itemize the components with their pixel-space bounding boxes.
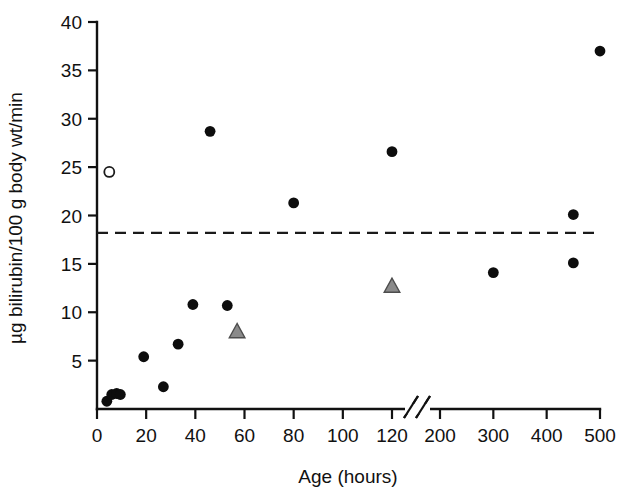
axis-break-marker: [404, 396, 430, 418]
y-axis-title: µg bilirubin/100 g body wt/min: [5, 92, 26, 344]
y-tick-label: 30: [61, 109, 82, 130]
data-point-filled-circle: [595, 46, 606, 57]
x-tick-label: 100: [327, 425, 359, 446]
data-point-filled-circle: [387, 146, 398, 157]
chart-canvas: 510152025303540 020406080100120200300400…: [0, 0, 624, 495]
x-tick-label: 20: [136, 425, 157, 446]
data-point-filled-circle: [158, 381, 169, 392]
y-tick-label: 10: [61, 302, 82, 323]
data-point-open-circle: [104, 167, 114, 177]
data-point-filled-circle: [173, 339, 184, 350]
x-tick-label: 400: [531, 425, 563, 446]
axes-group: [97, 22, 600, 409]
x-tick-label: 500: [584, 425, 616, 446]
data-point-filled-circle: [288, 198, 299, 209]
x-tick-label: 200: [424, 425, 456, 446]
y-tick-label: 15: [61, 254, 82, 275]
data-point-filled-circle: [187, 299, 198, 310]
data-point-filled-circle: [568, 209, 579, 220]
y-tick-labels: 510152025303540: [61, 12, 82, 372]
data-points-group: [101, 46, 605, 407]
y-tick-label: 25: [61, 157, 82, 178]
data-point-filled-circle: [138, 351, 149, 362]
data-point-filled-circle: [115, 389, 126, 400]
x-tick-label: 0: [92, 425, 103, 446]
x-tick-labels: 020406080100120200300400500: [92, 425, 616, 446]
x-tick-marks: [97, 409, 600, 419]
data-point-filled-circle: [568, 258, 579, 269]
x-tick-label: 80: [283, 425, 304, 446]
data-point-filled-circle: [488, 267, 499, 278]
x-tick-label: 40: [185, 425, 206, 446]
y-tick-label: 5: [71, 351, 82, 372]
data-point-triangle: [384, 278, 400, 292]
x-tick-label: 120: [376, 425, 408, 446]
scatter-plot-figure: 510152025303540 020406080100120200300400…: [0, 0, 624, 495]
y-tick-label: 40: [61, 12, 82, 33]
data-point-filled-circle: [222, 300, 233, 311]
y-tick-label: 20: [61, 206, 82, 227]
data-point-triangle: [229, 324, 245, 338]
x-axis-title: Age (hours): [298, 466, 397, 487]
data-point-filled-circle: [205, 126, 216, 137]
x-tick-label: 300: [477, 425, 509, 446]
y-tick-label: 35: [61, 60, 82, 81]
y-tick-marks: [88, 22, 97, 361]
x-tick-label: 60: [234, 425, 255, 446]
